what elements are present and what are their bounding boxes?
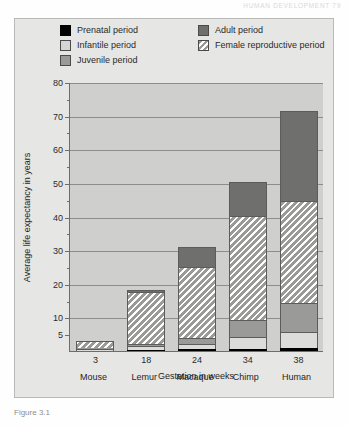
legend-swatch-repro-icon — [198, 40, 209, 51]
bar-segment-repro — [178, 267, 216, 338]
y-tick — [65, 218, 70, 219]
y-tick-label: 5 — [58, 330, 63, 340]
figure-panel: Prenatal periodInfantile periodJuvenile … — [14, 18, 334, 398]
y-tick-minor — [67, 302, 70, 303]
legend-item-infantile: Infantile period — [60, 40, 136, 51]
bar-segment-juvenile — [127, 344, 165, 347]
y-axis-title: Average life expectancy in years — [19, 83, 35, 352]
y-tick-label: 10 — [53, 313, 63, 323]
y-gridline — [70, 83, 323, 84]
legend-item-repro: Female reproductive period — [198, 40, 325, 51]
bar-segment-repro — [127, 292, 165, 344]
bar-segment-juvenile — [229, 320, 267, 337]
bar-segment-repro — [76, 341, 114, 348]
legend-swatch-juvenile-icon — [60, 55, 71, 66]
bar-segment-prenatal — [229, 349, 267, 351]
legend-swatch-prenatal-icon — [60, 25, 71, 36]
y-tick-label: 50 — [53, 179, 63, 189]
figure-caption: Figure 3.1 — [14, 408, 50, 417]
bar-segment-adult — [280, 111, 318, 200]
x-tick-label: 18 — [141, 355, 151, 365]
bar-segment-infantile — [280, 332, 318, 349]
bar-segment-juvenile — [280, 303, 318, 332]
x-tick-label: 38 — [294, 355, 304, 365]
running-head: HUMAN DEVELOPMENT 79 — [243, 2, 341, 9]
bar-segment-adult — [127, 290, 165, 292]
y-tick-minor — [67, 100, 70, 101]
y-tick-minor — [67, 201, 70, 202]
x-tick-label: 3 — [93, 355, 98, 365]
y-tick — [65, 83, 70, 84]
y-tick — [65, 318, 70, 319]
figure-root: HUMAN DEVELOPMENT 79 Prenatal periodInfa… — [0, 0, 349, 426]
y-tick — [65, 117, 70, 118]
species-label-mouse: Mouse — [80, 372, 107, 382]
x-tick-label: 24 — [192, 355, 202, 365]
y-tick-label: 40 — [53, 213, 63, 223]
y-tick-minor — [67, 234, 70, 235]
y-tick-label: 60 — [53, 145, 63, 155]
legend-swatch-adult-icon — [198, 25, 209, 36]
bar-segment-infantile — [127, 346, 165, 349]
y-tick-minor — [67, 133, 70, 134]
bar-segment-prenatal — [280, 348, 318, 351]
bar-segment-infantile — [229, 337, 267, 349]
y-tick — [65, 150, 70, 151]
y-tick-minor — [67, 268, 70, 269]
bar-segment-repro — [229, 216, 267, 320]
legend-label: Infantile period — [77, 40, 136, 51]
bar-segment-repro — [280, 201, 318, 304]
legend-item-adult: Adult period — [198, 25, 263, 36]
y-tick — [65, 251, 70, 252]
y-tick-label: 30 — [53, 246, 63, 256]
legend-item-juvenile: Juvenile period — [60, 55, 138, 66]
y-tick-label: 80 — [53, 78, 63, 88]
legend-label: Prenatal period — [77, 25, 138, 36]
species-label-chimp: Chimp — [233, 372, 259, 382]
y-tick-minor — [67, 167, 70, 168]
plot-area: 51020304050607080318243438 — [69, 83, 323, 352]
species-label-macaque: Macaque — [176, 372, 213, 382]
y-tick-label: 70 — [53, 112, 63, 122]
legend-label: Adult period — [215, 25, 263, 36]
y-tick-label: 20 — [53, 280, 63, 290]
species-label-lemur: Lemur — [131, 372, 157, 382]
y-tick — [65, 285, 70, 286]
y-tick — [65, 184, 70, 185]
legend-label: Juvenile period — [77, 55, 138, 66]
chart-legend: Prenatal periodInfantile periodJuvenile … — [60, 25, 332, 73]
bar-segment-adult — [178, 247, 216, 267]
legend-item-prenatal: Prenatal period — [60, 25, 138, 36]
bar-segment-juvenile — [178, 338, 216, 345]
species-label-human: Human — [282, 372, 311, 382]
y-tick — [65, 335, 70, 336]
legend-label: Female reproductive period — [215, 40, 325, 51]
bar-segment-infantile — [178, 344, 216, 349]
x-tick-label: 34 — [243, 355, 253, 365]
bar-segment-adult — [229, 182, 267, 216]
legend-swatch-infantile-icon — [60, 40, 71, 51]
